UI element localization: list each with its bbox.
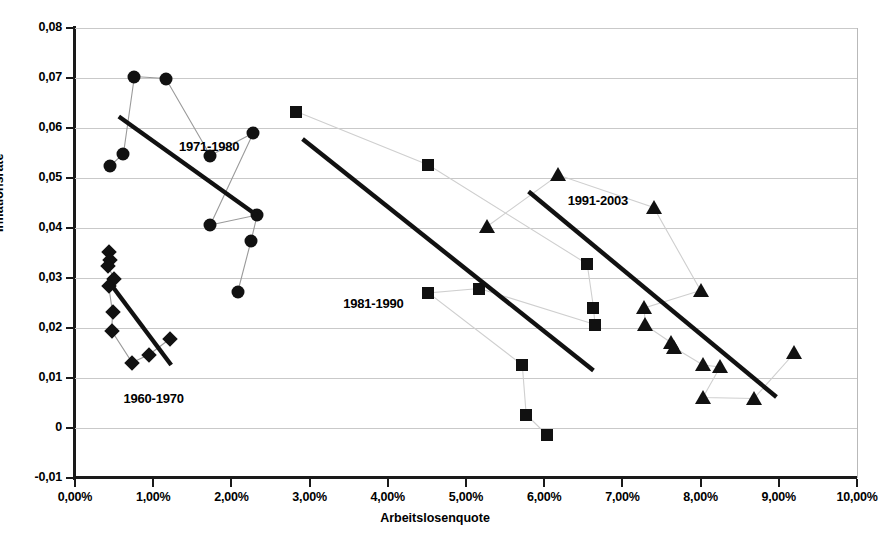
y-axis-tick-label: 0,02: [4, 321, 62, 333]
x-axis-tick: [465, 479, 467, 487]
x-axis-tick-label: 6,00%: [504, 490, 584, 504]
x-axis-tick-label: 1,00%: [113, 490, 193, 504]
y-axis-tick-label: 0,01: [4, 371, 62, 383]
y-axis-tick-label: 0,07: [4, 71, 62, 83]
trendline-1991-2003: [529, 192, 777, 398]
y-axis-tick-label: 0: [4, 421, 62, 433]
y-axis-tick-label: 0,05: [4, 171, 62, 183]
y-axis-tick-label: 0,06: [4, 121, 62, 133]
x-axis-tick-label: 3,00%: [270, 490, 350, 504]
x-axis-tick-label: 0,00%: [35, 490, 115, 504]
plot-area: 1960-19701971-19801981-19901991-2003: [75, 28, 857, 478]
x-axis-title: Arbeitslosenquote: [0, 511, 870, 525]
series-label-1981-1990: 1981-1990: [343, 296, 403, 311]
x-axis-tick: [621, 479, 623, 487]
x-axis-tick: [543, 479, 545, 487]
plot-right-border: [857, 28, 858, 478]
x-axis-tick-label: 8,00%: [661, 490, 741, 504]
x-axis-tick-label: 7,00%: [582, 490, 662, 504]
x-axis-tick: [230, 479, 232, 487]
y-axis-tick-label: 0,08: [4, 21, 62, 33]
x-axis-tick: [778, 479, 780, 487]
x-axis-tick-label: 2,00%: [191, 490, 271, 504]
x-axis-tick-label: 5,00%: [426, 490, 506, 504]
x-axis-tick: [700, 479, 702, 487]
series-label-1971-1980: 1971-1980: [179, 139, 239, 154]
x-axis-tick: [387, 479, 389, 487]
x-axis-tick-label: 9,00%: [739, 490, 819, 504]
x-axis-tick: [74, 479, 76, 487]
trendlines: [75, 28, 857, 478]
y-axis-tick-label: -0,01: [4, 471, 62, 483]
x-axis-tick: [309, 479, 311, 487]
trendline-1960-1970: [112, 286, 171, 366]
y-axis-tick-label: 0,03: [4, 271, 62, 283]
y-axis-tick-label: 0,04: [4, 221, 62, 233]
x-axis-tick-label: 10,00%: [817, 490, 883, 504]
series-label-1991-2003: 1991-2003: [568, 193, 628, 208]
trendline-1971-1980: [119, 117, 257, 216]
series-label-1960-1970: 1960-1970: [123, 391, 183, 406]
trendline-1981-1990: [303, 139, 594, 371]
x-axis-tick: [856, 479, 858, 487]
x-axis-tick-label: 4,00%: [348, 490, 428, 504]
figure-caption: [0, 546, 870, 559]
x-axis-tick: [152, 479, 154, 487]
